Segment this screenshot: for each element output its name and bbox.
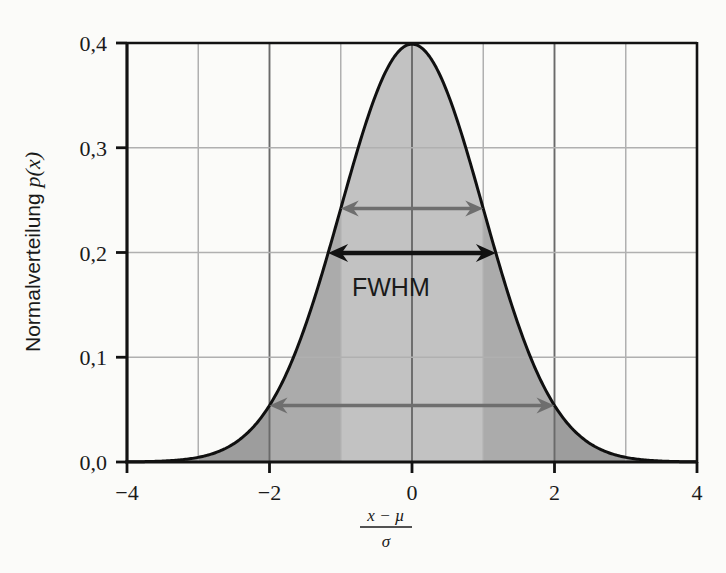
x-tick-label-2: 2 [549,480,560,505]
y-axis-title-main: Normalverteilung [21,193,44,352]
x-tick-label-4: 4 [692,480,703,505]
y-tick-label-0p1: 0,1 [80,345,108,370]
x-axis-title-denominator: σ [382,532,391,551]
y-tick-label-0p2: 0,2 [80,241,108,266]
normal-distribution-chart: −4−20240,00,10,20,30,4 FWHM Normalvertei… [0,0,726,573]
y-tick-label-0: 0,0 [80,450,108,475]
fwhm-label: FWHM [352,273,430,301]
y-axis-title-symbol: p(x) [20,152,45,189]
figure-container: −4−20240,00,10,20,30,4 FWHM Normalvertei… [0,0,726,573]
x-tick-label--4: −4 [115,480,138,505]
x-tick-label-0: 0 [407,480,418,505]
x-axis-title-numerator: x − µ [366,506,404,525]
y-tick-label-0p3: 0,3 [80,136,108,161]
y-axis-title-text: Normalverteilung p(x) [20,152,45,352]
y-tick-label-0p4: 0,4 [80,31,108,56]
x-tick-label--2: −2 [258,480,281,505]
y-axis-title: Normalverteilung p(x) [20,152,45,352]
